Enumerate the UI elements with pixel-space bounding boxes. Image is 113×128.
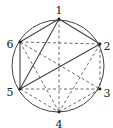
vertex-4 bbox=[58, 111, 61, 114]
vertex-3 bbox=[99, 88, 102, 91]
vertex-label-4: 4 bbox=[56, 118, 63, 128]
vertex-label-2: 2 bbox=[104, 40, 111, 53]
dashed-edge-6-4 bbox=[20, 42, 59, 112]
vertex-label-6: 6 bbox=[7, 38, 14, 51]
vertex-1 bbox=[58, 18, 61, 21]
vertex-5 bbox=[19, 88, 22, 91]
dashed-edge-2-4 bbox=[59, 44, 100, 112]
vertex-2 bbox=[99, 43, 102, 46]
vertex-label-3: 3 bbox=[104, 87, 111, 100]
vertex-label-1: 1 bbox=[56, 4, 63, 17]
dashed-edges bbox=[20, 19, 100, 112]
vertex-label-5: 5 bbox=[7, 86, 14, 99]
solid-edges bbox=[20, 19, 100, 89]
dashed-edge-6-2 bbox=[20, 42, 100, 44]
vertex-labels: 123456 bbox=[7, 4, 111, 128]
solid-edge-1-2 bbox=[59, 19, 100, 44]
circumscribed-circle bbox=[12, 20, 104, 112]
hexagon-graph-diagram: 123456 bbox=[0, 0, 113, 128]
vertex-6 bbox=[19, 41, 22, 44]
dashed-edge-3-4 bbox=[59, 89, 100, 112]
